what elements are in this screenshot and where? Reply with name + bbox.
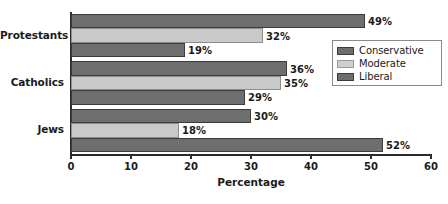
bar xyxy=(71,28,263,42)
bar-value-label: 35% xyxy=(284,78,308,89)
category-label-text: Protestants xyxy=(0,29,64,41)
bar xyxy=(71,14,365,28)
bar-value-label: 19% xyxy=(188,45,212,56)
bar xyxy=(71,109,251,123)
x-tick xyxy=(190,154,191,159)
bar-value-label: 29% xyxy=(248,92,272,103)
x-axis-title: Percentage xyxy=(71,176,431,188)
x-tick-label: 10 xyxy=(124,161,138,172)
x-tick-label: 50 xyxy=(364,161,378,172)
category-label: Jews xyxy=(0,123,64,137)
bar-value-label: 30% xyxy=(254,110,278,121)
legend: ConservativeModerateLiberal xyxy=(332,40,442,86)
bar-chart: ProtestantsCatholicsJews 0102030405060 4… xyxy=(0,0,448,204)
category-label-text: Catholics xyxy=(0,76,64,88)
bar xyxy=(71,123,179,137)
x-tick xyxy=(430,154,431,159)
x-tick-label: 30 xyxy=(244,161,258,172)
legend-swatch-icon xyxy=(337,60,354,68)
bar xyxy=(71,90,245,104)
x-tick-label: 0 xyxy=(68,161,75,172)
legend-swatch-icon xyxy=(337,73,354,81)
legend-label: Conservative xyxy=(359,45,424,56)
category-label: Catholics xyxy=(0,76,64,90)
x-tick-label: 40 xyxy=(304,161,318,172)
bar-value-label: 36% xyxy=(290,63,314,74)
legend-label: Moderate xyxy=(359,58,406,69)
bar-value-label: 18% xyxy=(182,125,206,136)
legend-swatch-icon xyxy=(337,47,354,55)
bar xyxy=(71,76,281,90)
bar-value-label: 32% xyxy=(266,30,290,41)
x-tick-label: 20 xyxy=(184,161,198,172)
bar-value-label: 52% xyxy=(386,139,410,150)
x-tick-label: 60 xyxy=(424,161,438,172)
bar xyxy=(71,138,383,152)
category-label: Protestants xyxy=(0,29,64,43)
x-tick xyxy=(310,154,311,159)
x-tick xyxy=(370,154,371,159)
legend-item[interactable]: Liberal xyxy=(337,70,437,83)
legend-item[interactable]: Moderate xyxy=(337,57,437,70)
category-label-text: Jews xyxy=(0,123,64,135)
legend-label: Liberal xyxy=(359,71,392,82)
bar xyxy=(71,43,185,57)
x-tick xyxy=(130,154,131,159)
bar xyxy=(71,61,287,75)
legend-item[interactable]: Conservative xyxy=(337,44,437,57)
x-tick xyxy=(250,154,251,159)
x-tick xyxy=(70,154,71,159)
bar-value-label: 49% xyxy=(368,16,392,27)
